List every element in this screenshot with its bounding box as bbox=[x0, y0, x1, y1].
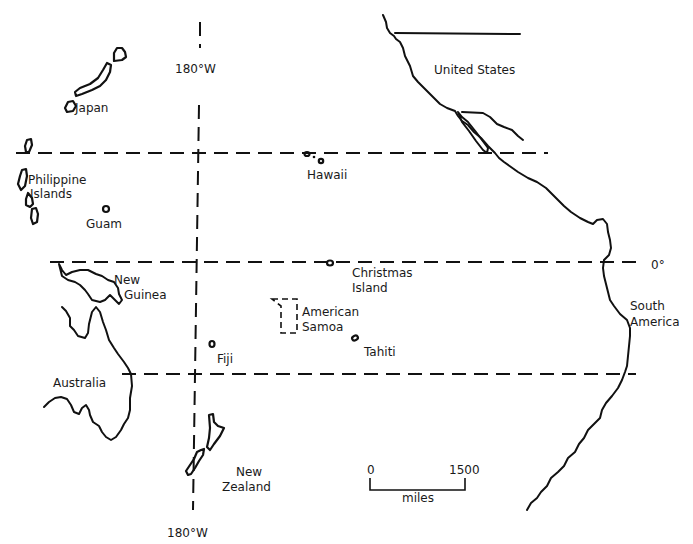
meridian-180 bbox=[193, 105, 199, 510]
label-japan: Japan bbox=[75, 101, 108, 116]
label-fiji: Fiji bbox=[217, 352, 233, 367]
meridian-label-bottom: 180°W bbox=[167, 526, 208, 541]
label-philippines-line2: Islands bbox=[30, 187, 72, 202]
american-samoa-boundary bbox=[272, 299, 297, 333]
label-south-america-line1: South bbox=[630, 299, 665, 314]
label-american-samoa-line2: Samoa bbox=[302, 320, 343, 335]
label-christmas-line1: Christmas bbox=[352, 266, 413, 281]
label-new-zealand-line2: Zealand bbox=[222, 480, 271, 495]
label-philippines-line1: Philippine bbox=[28, 173, 86, 188]
hawaii-island-3 bbox=[319, 159, 323, 163]
australia-new-guinea bbox=[44, 264, 132, 440]
label-american-samoa-line1: American bbox=[302, 305, 359, 320]
label-new-zealand-line1: New bbox=[236, 465, 262, 480]
new-zealand-islands bbox=[186, 414, 224, 475]
label-united-states: United States bbox=[434, 63, 515, 78]
label-guam: Guam bbox=[86, 217, 122, 232]
meridian-label-top: 180°W bbox=[175, 62, 216, 77]
guam-island bbox=[103, 206, 109, 212]
scale-bar-end: 1500 bbox=[449, 463, 480, 478]
scale-bar-start: 0 bbox=[367, 463, 375, 478]
label-hawaii: Hawaii bbox=[307, 168, 347, 183]
christmas-island bbox=[327, 261, 333, 266]
scale-bar-unit: miles bbox=[402, 491, 434, 506]
label-australia: Australia bbox=[53, 376, 106, 391]
fiji-island bbox=[210, 341, 215, 347]
label-new-guinea-line1: New bbox=[114, 273, 140, 288]
label-south-america-line2: America bbox=[630, 315, 680, 330]
label-christmas-line2: Island bbox=[352, 281, 388, 296]
pacific-map bbox=[0, 0, 693, 544]
label-new-guinea-line2: Guinea bbox=[124, 288, 167, 303]
north-america-coast bbox=[383, 15, 630, 510]
equator-label: 0° bbox=[651, 258, 665, 273]
tahiti-island bbox=[351, 335, 358, 342]
hawaii-island-2 bbox=[313, 156, 316, 159]
scale-bar bbox=[370, 478, 465, 490]
label-tahiti: Tahiti bbox=[364, 345, 396, 360]
